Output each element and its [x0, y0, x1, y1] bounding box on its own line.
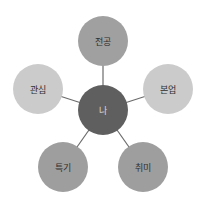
center-node: 나: [78, 85, 128, 135]
node-interest: 관심: [13, 64, 63, 114]
node-label-interest: 관심: [30, 85, 46, 95]
node-skill: 특기: [38, 142, 88, 192]
mind-map-diagram: 전공본업취미특기관심 나: [0, 0, 204, 208]
node-label-main-job: 본업: [160, 85, 176, 95]
center-label: 나: [99, 106, 107, 116]
node-major: 전공: [78, 16, 128, 66]
node-main-job: 본업: [143, 64, 193, 114]
node-label-major: 전공: [95, 37, 111, 47]
node-label-hobby: 취미: [135, 163, 151, 173]
node-label-skill: 특기: [55, 163, 71, 173]
node-hobby: 취미: [118, 142, 168, 192]
